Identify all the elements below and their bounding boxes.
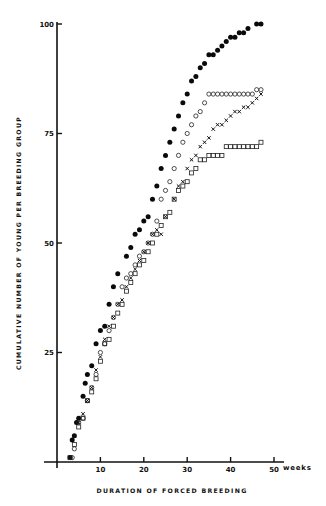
- x-marker: [155, 228, 158, 231]
- filled-circle-marker: [115, 271, 120, 276]
- open-circle-marker: [242, 92, 246, 96]
- x-marker: [151, 233, 154, 236]
- filled-circle-marker: [206, 52, 211, 57]
- x-axis-unit: weeks: [283, 464, 312, 472]
- series-filled-circle: [68, 22, 264, 461]
- open-circle-marker: [98, 350, 102, 354]
- open-square-marker: [233, 145, 237, 149]
- x-marker: [146, 241, 149, 244]
- open-square-marker: [77, 425, 81, 429]
- open-circle-marker: [255, 88, 259, 92]
- open-square-marker: [120, 302, 124, 306]
- open-circle-marker: [233, 92, 237, 96]
- filled-circle-marker: [198, 65, 203, 70]
- open-square-marker: [229, 145, 233, 149]
- open-circle-marker: [250, 92, 254, 96]
- open-square-marker: [250, 145, 254, 149]
- y-tick-label: 75: [44, 130, 54, 138]
- x-marker: [259, 92, 262, 95]
- open-square-marker: [216, 153, 220, 157]
- filled-circle-marker: [141, 219, 146, 224]
- x-marker: [186, 167, 189, 170]
- filled-circle-marker: [237, 30, 242, 35]
- open-circle-marker: [172, 166, 176, 170]
- open-square-marker: [129, 280, 133, 284]
- open-circle-marker: [194, 114, 198, 118]
- open-square-marker: [181, 184, 185, 188]
- x-axis: 1020304050 weeks: [44, 457, 312, 474]
- x-marker: [164, 215, 167, 218]
- open-square-marker: [168, 210, 172, 214]
- open-square-marker: [220, 153, 224, 157]
- open-square-marker: [159, 223, 163, 227]
- x-marker: [229, 114, 232, 117]
- open-square-marker: [107, 337, 111, 341]
- y-tick-label: 50: [44, 240, 54, 248]
- filled-circle-marker: [189, 78, 194, 83]
- x-marker: [203, 141, 206, 144]
- x-marker: [216, 123, 219, 126]
- x-marker: [177, 184, 180, 187]
- x-marker: [94, 368, 97, 371]
- filled-circle-marker: [154, 184, 159, 189]
- open-square-marker: [155, 232, 159, 236]
- open-circle-marker: [198, 110, 202, 114]
- open-circle-marker: [133, 263, 137, 267]
- x-tick-label: 10: [96, 466, 106, 474]
- filled-circle-marker: [232, 35, 237, 40]
- x-marker: [238, 110, 241, 113]
- filled-circle-marker: [133, 232, 138, 237]
- x-marker: [138, 259, 141, 262]
- filled-circle-marker: [241, 30, 246, 35]
- x-marker: [194, 154, 197, 157]
- open-square-marker: [137, 263, 141, 267]
- x-marker: [233, 110, 236, 113]
- y-axis-title: CUMULATIVE NUMBER OF YOUNG PER BREEDING …: [15, 116, 22, 370]
- filled-circle-marker: [76, 416, 81, 421]
- open-square-marker: [242, 145, 246, 149]
- open-square-marker: [98, 359, 102, 363]
- open-square-marker: [116, 311, 120, 315]
- scatter-chart: 255075100 1020304050 weeks CUMULATIVE NU…: [0, 0, 326, 506]
- y-tick-label: 25: [44, 349, 54, 357]
- open-square-marker: [90, 390, 94, 394]
- x-marker: [90, 386, 93, 389]
- filled-circle-marker: [102, 324, 107, 329]
- x-marker: [199, 145, 202, 148]
- series-cross: [73, 92, 263, 437]
- filled-circle-marker: [107, 302, 112, 307]
- filled-circle-marker: [83, 381, 88, 386]
- open-square-marker: [124, 289, 128, 293]
- open-square-marker: [259, 140, 263, 144]
- x-marker: [246, 106, 249, 109]
- open-circle-marker: [94, 372, 98, 376]
- x-marker: [181, 180, 184, 183]
- x-tick-label: 50: [269, 466, 279, 474]
- open-circle-marker: [81, 416, 85, 420]
- filled-circle-marker: [228, 35, 233, 40]
- filled-circle-marker: [146, 214, 151, 219]
- filled-circle-marker: [137, 227, 142, 232]
- y-tick-label: 100: [39, 21, 54, 29]
- x-marker: [103, 338, 106, 341]
- x-tick-label: 40: [226, 466, 236, 474]
- x-marker: [190, 158, 193, 161]
- open-square-marker: [185, 180, 189, 184]
- open-square-marker: [203, 158, 207, 162]
- x-marker: [133, 268, 136, 271]
- open-square-marker: [246, 145, 250, 149]
- x-marker: [220, 123, 223, 126]
- filled-circle-marker: [128, 245, 133, 250]
- x-marker: [207, 136, 210, 139]
- open-square-marker: [207, 153, 211, 157]
- x-marker: [255, 97, 258, 100]
- filled-circle-marker: [193, 74, 198, 79]
- open-square-marker: [190, 171, 194, 175]
- open-circle-marker: [176, 153, 180, 157]
- open-square-marker: [255, 145, 259, 149]
- open-square-marker: [224, 145, 228, 149]
- open-circle-marker: [168, 180, 172, 184]
- filled-circle-marker: [219, 43, 224, 48]
- x-tick-label: 30: [182, 466, 192, 474]
- x-marker: [129, 276, 132, 279]
